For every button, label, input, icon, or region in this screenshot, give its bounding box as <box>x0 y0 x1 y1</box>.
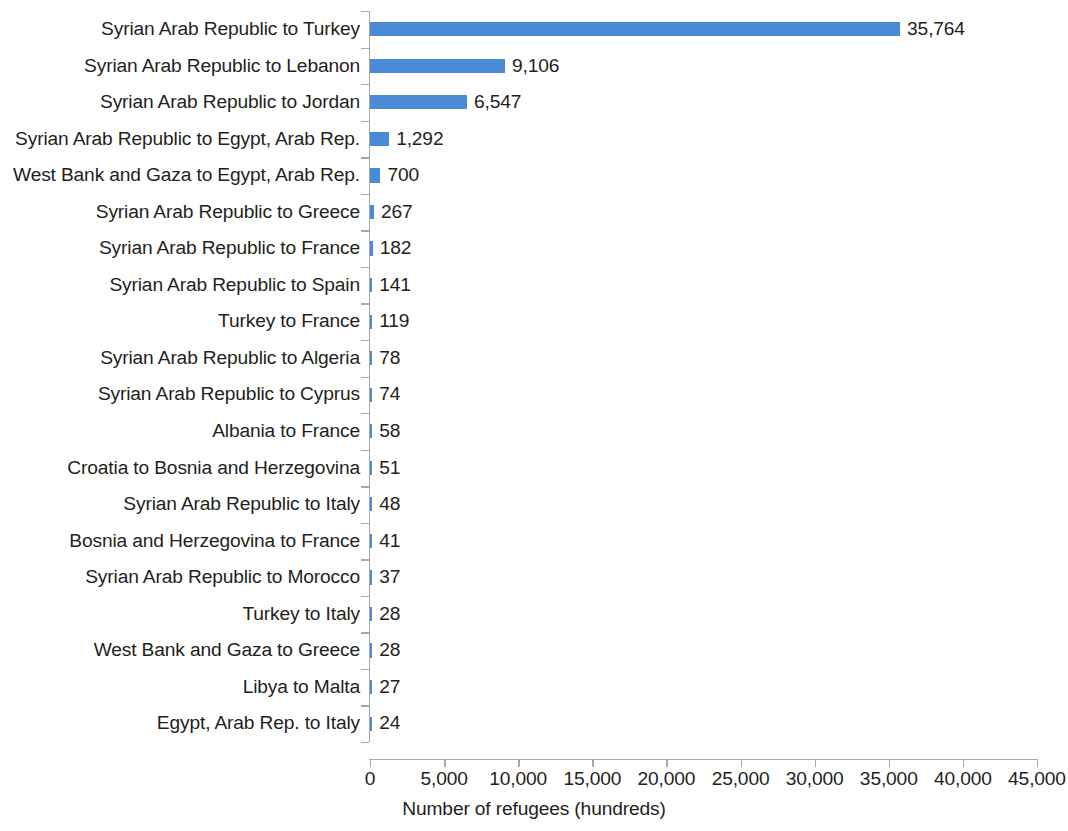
category-label: Syrian Arab Republic to Morocco <box>85 559 360 596</box>
x-axis-tick <box>666 759 667 767</box>
x-axis-tick-label: 35,000 <box>860 768 918 790</box>
category-label: Bosnia and Herzegovina to France <box>69 523 360 560</box>
bar-cell: 28 <box>370 596 1068 633</box>
category-label: Syrian Arab Republic to Algeria <box>100 340 360 377</box>
bar-value-label: 9,106 <box>512 48 559 85</box>
bar-cell: 51 <box>370 450 1068 487</box>
x-axis-tick <box>444 759 445 767</box>
bar-row: Syrian Arab Republic to Jordan6,547 <box>0 84 1068 121</box>
bar-row: Libya to Malta27 <box>0 669 1068 706</box>
x-axis-tick-label: 30,000 <box>786 768 844 790</box>
x-axis-tick-label: 10,000 <box>489 768 547 790</box>
category-label: West Bank and Gaza to Greece <box>94 632 360 669</box>
bar-cell: 35,764 <box>370 11 1068 48</box>
bar-row: Syrian Arab Republic to France182 <box>0 230 1068 267</box>
category-label: Syrian Arab Republic to Cyprus <box>98 376 360 413</box>
x-axis-tick <box>741 759 742 767</box>
bar-value-label: 119 <box>379 303 409 340</box>
x-axis-tick-label: 5,000 <box>420 768 467 790</box>
bar-value-label: 35,764 <box>907 11 965 48</box>
bar-cell: 78 <box>370 340 1068 377</box>
y-axis-tick <box>361 230 369 231</box>
bar-value-label: 267 <box>381 194 413 231</box>
x-axis-title: Number of refugees (hundreds) <box>0 798 1068 820</box>
bar-row: West Bank and Gaza to Egypt, Arab Rep.70… <box>0 157 1068 194</box>
bar-cell: 37 <box>370 559 1068 596</box>
bar-row: Bosnia and Herzegovina to France41 <box>0 523 1068 560</box>
bar-row: Turkey to France119 <box>0 303 1068 340</box>
y-axis-tick <box>361 669 369 670</box>
bar-cell: 182 <box>370 230 1068 267</box>
bar-row: Syrian Arab Republic to Algeria78 <box>0 340 1068 377</box>
category-label: Egypt, Arab Rep. to Italy <box>157 705 360 742</box>
bar-cell: 119 <box>370 303 1068 340</box>
bar-cell: 267 <box>370 194 1068 231</box>
x-axis-tick <box>889 759 890 767</box>
x-axis-tick <box>592 759 593 767</box>
bar <box>370 168 380 182</box>
category-label: West Bank and Gaza to Egypt, Arab Rep. <box>13 157 360 194</box>
category-label: Syrian Arab Republic to Lebanon <box>84 48 360 85</box>
bar-value-label: 28 <box>379 596 400 633</box>
y-axis-tick <box>361 523 369 524</box>
x-axis-tick-label: 15,000 <box>563 768 621 790</box>
category-label: Turkey to France <box>218 303 360 340</box>
y-axis-tick <box>361 377 369 378</box>
bar-cell: 28 <box>370 632 1068 669</box>
y-axis-tick <box>361 705 369 706</box>
x-axis-tick <box>963 759 964 767</box>
bar-row: Syrian Arab Republic to Greece267 <box>0 194 1068 231</box>
y-axis-tick <box>361 450 369 451</box>
category-label: Libya to Malta <box>243 669 360 706</box>
bar-row: Egypt, Arab Rep. to Italy24 <box>0 705 1068 742</box>
bar <box>370 59 505 73</box>
bar <box>370 95 467 109</box>
bar-row: West Bank and Gaza to Greece28 <box>0 632 1068 669</box>
bar-cell: 58 <box>370 413 1068 450</box>
x-axis-tick-label: 45,000 <box>1008 768 1066 790</box>
bar-value-label: 41 <box>379 523 400 560</box>
y-axis-line <box>369 11 370 742</box>
y-axis-tick <box>361 48 369 49</box>
category-label: Albania to France <box>212 413 360 450</box>
refugee-flows-bar-chart: Syrian Arab Republic to Turkey35,764Syri… <box>0 0 1068 831</box>
y-axis-tick <box>361 303 369 304</box>
bar-cell: 24 <box>370 705 1068 742</box>
bar-cell: 6,547 <box>370 84 1068 121</box>
bar-value-label: 74 <box>379 376 400 413</box>
bar-cell: 141 <box>370 267 1068 304</box>
x-axis-tick-label: 20,000 <box>638 768 696 790</box>
bar-value-label: 48 <box>379 486 400 523</box>
bar-value-label: 6,547 <box>474 84 521 121</box>
y-axis-tick <box>361 11 369 12</box>
category-label: Syrian Arab Republic to France <box>99 230 360 267</box>
y-axis-tick <box>361 121 369 122</box>
bar-row: Syrian Arab Republic to Turkey35,764 <box>0 11 1068 48</box>
bar-value-label: 78 <box>379 340 400 377</box>
bar-cell: 700 <box>370 157 1068 194</box>
y-axis-tick <box>361 84 369 85</box>
bar-row: Syrian Arab Republic to Egypt, Arab Rep.… <box>0 121 1068 158</box>
y-axis-tick <box>361 157 369 158</box>
bar-cell: 48 <box>370 486 1068 523</box>
bar <box>370 22 900 36</box>
category-label: Syrian Arab Republic to Turkey <box>101 11 360 48</box>
y-axis-tick <box>361 559 369 560</box>
y-axis-tick <box>361 267 369 268</box>
y-axis-tick <box>361 340 369 341</box>
bar-row: Syrian Arab Republic to Lebanon9,106 <box>0 48 1068 85</box>
bar-value-label: 37 <box>379 559 400 596</box>
bar-cell: 74 <box>370 376 1068 413</box>
category-label: Syrian Arab Republic to Italy <box>123 486 360 523</box>
x-axis-line <box>369 759 1038 760</box>
bar-cell: 27 <box>370 669 1068 706</box>
category-label: Turkey to Italy <box>242 596 360 633</box>
y-axis-tick <box>361 194 369 195</box>
bar-value-label: 51 <box>379 450 400 487</box>
bar-value-label: 27 <box>379 669 400 706</box>
bar-row: Syrian Arab Republic to Cyprus74 <box>0 376 1068 413</box>
category-label: Syrian Arab Republic to Egypt, Arab Rep. <box>15 121 360 158</box>
bar-value-label: 182 <box>380 230 412 267</box>
y-axis-tick <box>361 632 369 633</box>
bar-row: Croatia to Bosnia and Herzegovina51 <box>0 450 1068 487</box>
